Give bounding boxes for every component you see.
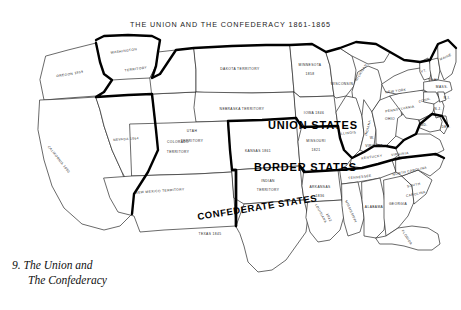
shape-washington-territory: [96, 35, 160, 80]
label-georgia: GEORGIA: [389, 202, 408, 206]
label-iowa: IOWA 1846: [304, 111, 324, 115]
label-wisconsin: WISCONSIN: [331, 82, 354, 86]
label-kansas: KANSAS 1861: [245, 149, 271, 153]
figure-caption-line2: The Confederacy: [28, 273, 162, 288]
label-texas: TEXAS 1845: [198, 232, 221, 236]
label-nebraska-territory: NEBRASKA TERRITORY: [220, 107, 265, 111]
label-alabama: ALABAMA: [365, 205, 384, 209]
label-minnesota-line2: 1858: [306, 72, 315, 76]
label-dakota-territory: DAKOTA TERRITORY: [220, 67, 260, 71]
label-rhode-island: R.I.: [444, 96, 451, 100]
label-minnesota-line1: MINNESOTA: [299, 63, 322, 67]
label-indian-territory-line2: TERRITORY: [257, 188, 280, 192]
label-arkansas-line1: ARKANSAS: [309, 185, 331, 189]
shape-colorado-territory: [130, 121, 232, 176]
label-west-virginia-line1: W.: [370, 136, 375, 140]
label-west-virginia-line2: VIRGINIA: [365, 144, 383, 148]
label-ohio: OHIO: [385, 117, 395, 121]
label-indian-territory-line1: INDIAN: [261, 179, 275, 183]
label-colorado-territory-line2: TERRITORY: [167, 150, 190, 154]
label-missouri-line1: MISSOURI: [306, 139, 326, 143]
label-union-states: UNION STATES: [268, 119, 358, 131]
label-new-hampshire: N.H.: [430, 78, 438, 82]
figure-caption-line1: The Union and: [24, 259, 93, 271]
label-delaware: DEL.: [442, 125, 451, 129]
label-new-jersey: N.J.: [434, 107, 441, 111]
label-maryland: MD.: [420, 123, 427, 127]
label-border-states: BORDER STATES: [254, 161, 357, 173]
label-massachusetts: MASS.: [436, 85, 448, 89]
figure-number: 9.: [12, 259, 21, 271]
label-utah-territory-line1: UTAH: [187, 129, 198, 133]
label-missouri-line2: 1821: [312, 148, 321, 152]
figure-caption: 9. The Union and The Confederacy: [12, 258, 162, 288]
shape-new-mexico-territory: [104, 172, 236, 232]
label-colorado-territory-line1: COLORADO: [167, 140, 189, 144]
map-figure: THE UNION AND THE CONFEDERACY 1861-1865: [0, 0, 461, 310]
